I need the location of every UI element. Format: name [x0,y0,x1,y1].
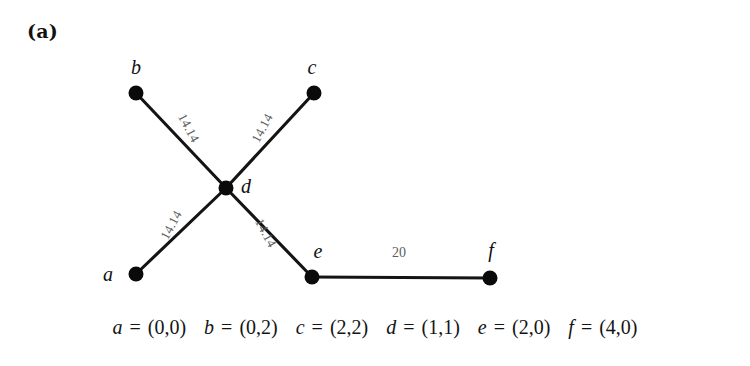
node-b [129,86,144,101]
coord-var-b: b [204,316,214,338]
figure-panel: (a) 14.1414.1414.1414.1420 abcdef a = (0… [0,0,750,366]
coord-entry-c: c = (2,2) [296,316,369,339]
node-f [483,271,498,286]
coord-entry-a: a = (0,0) [113,316,187,339]
edge-weight-a-d: 14.14 [157,208,185,242]
node-label-b: b [131,56,141,78]
coord-entry-f: f = (4,0) [568,316,637,339]
coord-var-d: d [386,316,396,338]
node-a [129,267,144,282]
edge-a-d [136,188,226,274]
coord-var-a: a [113,316,123,338]
coord-entry-d: d = (1,1) [386,316,460,339]
node-label-d: d [241,175,252,197]
coordinate-caption: a = (0,0)b = (0,2)c = (2,2)d = (1,1)e = … [0,316,750,339]
edge-labels-group: 14.1414.1414.1414.1420 [157,111,406,260]
node-d [219,181,234,196]
coord-pair-e: (2,0) [512,316,550,338]
node-c [307,86,322,101]
coord-equals: = [305,316,330,338]
coord-equals: = [214,316,239,338]
node-label-f: f [488,239,496,262]
edge-weight-d-e: 14.14 [252,216,280,250]
coord-pair-f: (4,0) [599,316,637,338]
edge-weight-e-f: 20 [392,245,406,260]
coord-equals: = [396,316,421,338]
node-label-e: e [314,240,323,262]
edge-b-d [136,93,226,188]
node-e [305,270,320,285]
coord-equals: = [574,316,599,338]
node-label-c: c [308,56,317,78]
coord-pair-a: (0,0) [148,316,186,338]
edge-e-f [312,277,490,278]
coord-equals: = [123,316,148,338]
coord-pair-b: (0,2) [239,316,277,338]
coord-pair-c: (2,2) [330,316,368,338]
coord-equals: = [487,316,512,338]
coord-pair-d: (1,1) [422,316,460,338]
graph-diagram: 14.1414.1414.1414.1420 abcdef [0,0,750,366]
coord-entry-e: e = (2,0) [478,316,551,339]
coord-var-e: e [478,316,487,338]
edge-c-d [226,93,314,188]
node-label-a: a [103,263,113,285]
coord-var-c: c [296,316,305,338]
coord-entry-b: b = (0,2) [204,316,278,339]
